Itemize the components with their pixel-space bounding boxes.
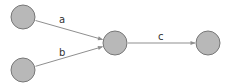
edge-label-b: b	[59, 47, 65, 58]
edge-b	[36, 47, 103, 67]
edge-a	[36, 21, 103, 40]
node-n2	[11, 58, 35, 82]
node-n3	[103, 31, 127, 55]
node-n1	[11, 5, 35, 29]
edge-label-c: c	[158, 31, 164, 42]
diagram-canvas: a b c	[0, 0, 231, 84]
graph-svg: a b c	[0, 0, 231, 84]
node-n4	[196, 31, 220, 55]
edge-label-a: a	[59, 14, 65, 25]
